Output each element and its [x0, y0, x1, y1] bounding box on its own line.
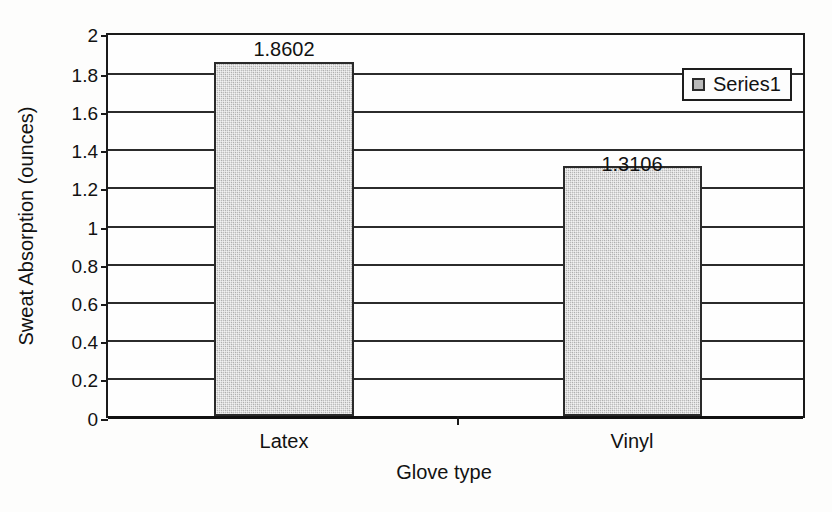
- data-label-vinyl: 1.3106: [601, 154, 662, 174]
- y-tick-mark-0: [101, 419, 108, 421]
- gridline-1.4: 1.4: [108, 149, 803, 151]
- y-tick-mark-1.8: [101, 75, 108, 77]
- legend[interactable]: Series1: [682, 68, 792, 101]
- x-axis-title: Glove type: [0, 462, 832, 482]
- y-tick-label-1: 1: [87, 218, 98, 237]
- y-tick-label-1.2: 1.2: [72, 180, 98, 199]
- y-tick-label-1.8: 1.8: [72, 66, 98, 85]
- y-tick-label-0: 0: [87, 410, 98, 429]
- bar-latex[interactable]: [214, 62, 354, 416]
- y-tick-label-2: 2: [87, 26, 98, 45]
- chart-figure: Sweat Absorption (ounces) 2 1.8 1.6 1.4 …: [0, 0, 832, 512]
- legend-swatch-icon: [692, 78, 705, 91]
- y-tick-label-0.4: 0.4: [72, 332, 98, 351]
- y-tick-mark-1: [101, 228, 108, 230]
- data-label-latex: 1.8602: [253, 39, 314, 59]
- x-tick-mark-center: [457, 416, 459, 425]
- plot-area: 2 1.8 1.6 1.4 1.2 1 0.8 0.6: [106, 33, 805, 418]
- y-tick-label-1.6: 1.6: [72, 104, 98, 123]
- y-tick-mark-2: [101, 35, 108, 37]
- y-axis-title: Sweat Absorption (ounces): [12, 33, 40, 418]
- y-tick-mark-0.4: [101, 342, 108, 344]
- x-category-label-latex: Latex: [260, 431, 309, 451]
- x-category-label-vinyl: Vinyl: [611, 431, 654, 451]
- legend-label-series1: Series1: [713, 74, 781, 94]
- y-tick-label-0.6: 0.6: [72, 294, 98, 313]
- y-tick-mark-0.6: [101, 304, 108, 306]
- gridline-0: 0: [108, 416, 803, 419]
- x-axis-title-label: Glove type: [396, 462, 492, 482]
- y-tick-mark-0.2: [101, 380, 108, 382]
- y-axis-title-label: Sweat Absorption (ounces): [16, 106, 36, 345]
- gridline-1.6: 1.6: [108, 111, 803, 113]
- y-tick-label-1.4: 1.4: [72, 142, 98, 161]
- y-tick-label-0.2: 0.2: [72, 370, 98, 389]
- bar-vinyl[interactable]: [563, 166, 702, 416]
- y-tick-mark-1.6: [101, 113, 108, 115]
- y-tick-mark-1.2: [101, 189, 108, 191]
- y-tick-mark-1.4: [101, 151, 108, 153]
- y-tick-label-0.8: 0.8: [72, 256, 98, 275]
- y-tick-mark-0.8: [101, 266, 108, 268]
